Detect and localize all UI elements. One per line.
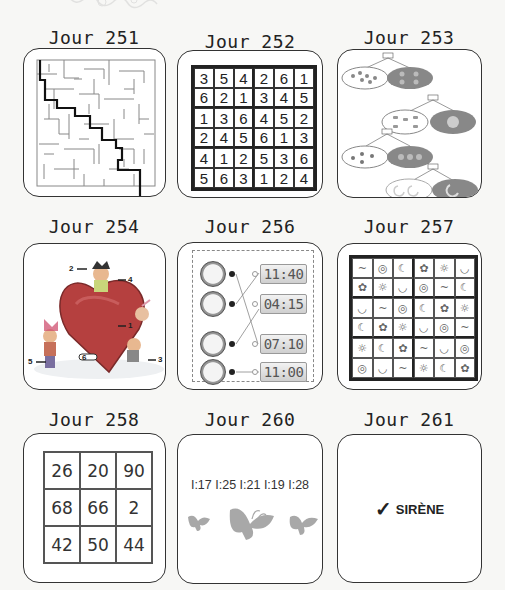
card-counting-groups [337,49,482,198]
clock-icon [200,331,226,357]
sudoku-cell: 4 [254,108,274,128]
card-butterflies: I:17 I:25 I:21 I:19 I:28 [177,434,323,584]
number-cell: 50 [80,526,116,563]
sudoku-cell: 2 [294,108,314,128]
number-cell: 66 [80,489,116,526]
symbol-cell: ◡ [434,338,455,358]
number-cell: 42 [44,526,80,563]
sudoku-cell: 6 [254,128,274,148]
sudoku-cell: 2 [194,128,214,148]
symbol-cell: ◡ [393,278,414,298]
card-title-251: Jour 251 [19,27,169,48]
dot-c [252,341,258,347]
sudoku-cell: 3 [294,128,314,148]
symbol-cell: ✿ [434,298,455,318]
symbol-cell: ☾ [434,358,455,378]
symbol-cell: ✿ [393,338,414,358]
sudoku-cell: 6 [294,148,314,168]
sudoku-cell: 4 [194,148,214,168]
symbol-cell: ◡ [352,298,373,318]
symbol-cell: ✿ [373,318,394,338]
number-cell: 20 [80,452,116,489]
symbol-cell: ~ [455,318,476,338]
symbol-grid: ~◎☾✿☼◡✿☼◡◎~☾◡~◎☾✿☼☾✿☼◡◎~☼☾✿~◡◎◎◡~☼☾✿ [349,255,478,381]
dot-b [252,301,258,307]
sudoku-cell: 3 [194,68,214,88]
symbol-cell: ✿ [352,278,373,298]
symbol-cell: ◎ [393,298,414,318]
counting-groups-image [338,50,482,198]
sudoku-cell: 1 [274,128,294,148]
symbol-cell: ~ [414,338,435,358]
symbol-cell: ☼ [414,358,435,378]
sudoku-cell: 3 [274,148,294,168]
number-cell: 44 [116,526,152,563]
clock-row-2: 04:15 [200,291,310,319]
symbol-cell: ✿ [455,358,476,378]
sudoku-cell: 2 [214,88,234,108]
label-6: 6 [82,353,86,362]
symbol-cell: ~ [393,358,414,378]
symbol-cell: ☼ [373,278,394,298]
symbol-cell: ◎ [373,258,394,278]
symbol-cell: ☼ [393,318,414,338]
swirl-ornament-icon [62,0,172,16]
digital-time: 04:15 [260,294,307,314]
sudoku-grid: 354261621345136452245613412536563124 [191,65,317,191]
digital-time: 11:00 [260,362,307,382]
heart-illustration [24,244,166,390]
maze-image [24,49,166,197]
sudoku-cell: 4 [294,168,314,188]
symbol-cell: ✿ [414,258,435,278]
card-title-254: Jour 254 [19,216,169,237]
symbol-cell: ☼ [352,338,373,358]
sudoku-cell: 6 [274,68,294,88]
symbol-cell: ~ [434,278,455,298]
card-title-258: Jour 258 [19,409,169,430]
clock-icon [200,261,226,287]
clock-icon [200,359,226,385]
sudoku-cell: 1 [214,148,234,168]
sudoku-cell: 6 [214,168,234,188]
sudoku-cell: 5 [234,128,254,148]
sudoku-cell: 1 [254,168,274,188]
symbol-cell: ☾ [393,258,414,278]
symbol-cell: ☾ [455,278,476,298]
digital-time: 07:10 [260,334,307,354]
dot-3 [229,341,235,347]
clock-icon [200,291,226,317]
dot-4 [229,369,235,375]
dot-d [252,369,258,375]
sudoku-cell: 1 [294,68,314,88]
symbol-cell: ◡ [455,258,476,278]
symbol-cell: ~ [352,258,373,278]
sudoku-cell: 5 [194,168,214,188]
card-answer: ✓ SIRÈNE [337,434,482,583]
butterfly-icons [178,505,323,555]
dot-a [252,271,258,277]
symbol-cell: ☾ [352,318,373,338]
clock-row-1: 11:40 [200,261,310,289]
card-maze [23,48,166,197]
sudoku-cell: 5 [214,68,234,88]
symbol-cell: ◎ [352,358,373,378]
dot-2 [229,301,235,307]
symbol-cell: ☾ [373,338,394,358]
card-sudoku: 354261621345136452245613412536563124 [177,50,323,198]
sudoku-cell: 6 [194,88,214,108]
sudoku-cell: 1 [234,88,254,108]
sudoku-cell: 5 [274,108,294,128]
label-3: 3 [158,355,162,364]
maze-solution-path [40,60,140,197]
number-cell: 90 [116,452,152,489]
card-illustration: 2 4 1 6 5 3 [23,243,166,390]
symbol-cell: ◎ [414,278,435,298]
sudoku-cell: 5 [294,88,314,108]
card-title-256: Jour 256 [175,216,325,237]
answer-row: ✓ SIRÈNE [338,499,481,519]
label-5: 5 [28,357,32,366]
symbol-cell: ◎ [434,318,455,338]
clock-row-3: 07:10 [200,331,310,359]
symbol-cell: ◎ [455,338,476,358]
card-title-257: Jour 257 [334,216,484,237]
